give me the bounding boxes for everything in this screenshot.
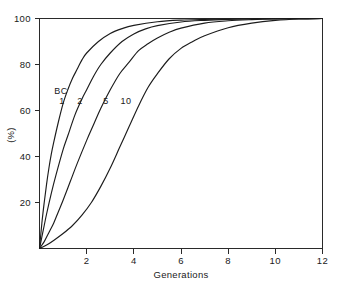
y-axis-tick-labels: 100 80 60 40 20: [14, 13, 31, 208]
x-axis-tick-labels: 2 4 6 8 10 12: [84, 255, 328, 266]
y-axis-title: (%): [5, 127, 16, 143]
x-tick-label-12: 12: [317, 255, 328, 266]
curve-bc-5: [40, 19, 323, 249]
x-tick-label-6: 6: [178, 255, 184, 266]
y-tick-label-40: 40: [20, 151, 31, 162]
line-chart-svg: 100 80 60 40 20 2 4 6 8 10 12 Generation…: [0, 0, 347, 282]
curve-label-10: 10: [121, 96, 132, 106]
x-tick-label-10: 10: [270, 255, 281, 266]
plot-frame: [40, 19, 323, 249]
curve-label-bc-prefix: BC: [54, 86, 67, 96]
axes-box: [40, 19, 323, 249]
y-tick-label-80: 80: [20, 59, 31, 70]
data-curves: [40, 18, 323, 248]
y-tick-label-100: 100: [14, 13, 31, 24]
curve-label-2: 2: [77, 96, 82, 106]
y-tick-label-20: 20: [20, 197, 31, 208]
y-axis-ticks: [35, 19, 40, 203]
curve-bc-10: [40, 19, 323, 249]
chart-figure: 100 80 60 40 20 2 4 6 8 10 12 Generation…: [0, 0, 347, 282]
x-tick-label-4: 4: [131, 255, 137, 266]
y-tick-label-60: 60: [20, 105, 31, 116]
x-tick-label-8: 8: [225, 255, 231, 266]
curve-label-5: 5: [103, 96, 108, 106]
curve-bc-1: [40, 18, 323, 248]
x-tick-label-2: 2: [84, 255, 90, 266]
x-axis-title: Generations: [153, 269, 208, 280]
curve-bc-2: [40, 19, 323, 249]
curve-label-1: 1: [59, 96, 64, 106]
x-axis-ticks: [87, 249, 323, 254]
